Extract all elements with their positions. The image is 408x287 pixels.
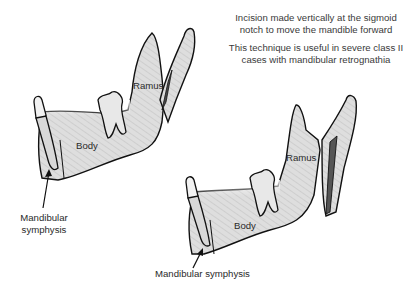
symphysis-label-after: Mandibular symphysis <box>155 268 250 280</box>
symphysis-label-line-2: symphysis <box>14 224 74 236</box>
mandible-after <box>186 96 356 268</box>
body-label-before: Body <box>76 140 98 152</box>
caption-line-1: Incision made vertically at the sigmoid <box>226 12 406 24</box>
caption-line-3: This technique is useful in severe class… <box>226 42 406 54</box>
mandible-osteotomy-diagram: Incision made vertically at the sigmoid … <box>0 0 408 287</box>
condyle-segment-before <box>160 29 195 122</box>
symphysis-label-line-1: Mandibular <box>14 212 74 224</box>
caption-indication: This technique is useful in severe class… <box>226 42 406 66</box>
caption-line-4: cases with mandibular retrognathia <box>226 54 406 66</box>
symphysis-label-before: Mandibular symphysis <box>14 212 74 236</box>
ramus-label-after: Ramus <box>286 152 316 164</box>
incisor-before <box>34 96 46 118</box>
mandible-before <box>34 29 195 208</box>
body-label-after: Body <box>234 220 256 232</box>
caption-incision: Incision made vertically at the sigmoid … <box>226 12 406 36</box>
ramus-label-before: Ramus <box>133 80 163 92</box>
caption-line-2: notch to move the mandible forward <box>226 24 406 36</box>
